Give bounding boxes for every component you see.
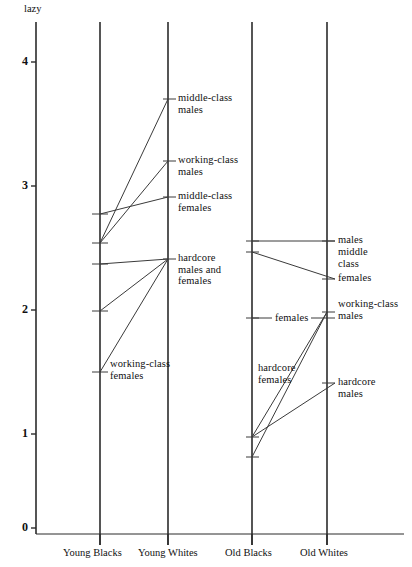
- label-old-hardcore-males: hardcore males: [338, 376, 376, 399]
- slope-working-class-females: [100, 259, 168, 311]
- label-working-class-females: working-class females: [110, 358, 170, 381]
- label-old-middle-class: middle class: [338, 246, 368, 269]
- y-tick-label-4: 4: [8, 54, 28, 69]
- label-old-blacks-females: females: [272, 312, 311, 324]
- label-middle-class-females: middle-class females: [178, 190, 232, 213]
- x-label-old-blacks: Old Blacks: [225, 547, 272, 558]
- label-old-hardcore-females: hardcore females: [258, 362, 296, 385]
- y-tick-label-1: 1: [8, 426, 28, 441]
- label-middle-class-males: middle-class males: [178, 92, 232, 115]
- leader-working-class-females: [100, 259, 168, 372]
- slope-middle-class-males: [100, 99, 168, 243]
- x-label-young-blacks: Young Blacks: [63, 547, 122, 558]
- y-tick-label-2: 2: [8, 302, 28, 317]
- y-tick-label-0: 0: [8, 520, 28, 535]
- slope-old-hardcore-males: [252, 383, 335, 437]
- slope-hardcore-males-and-females: [100, 259, 168, 264]
- label-working-class-males: working-class males: [178, 154, 238, 177]
- y-axis-top-label: lazy: [24, 3, 42, 14]
- slope-working-class-males: [100, 161, 168, 243]
- slopegraph-chart: lazy 4 3 2 1 0 middle-class males workin…: [0, 0, 412, 567]
- label-old-females: females: [338, 272, 371, 284]
- slope-middle-class-females: [100, 197, 168, 214]
- label-old-males: males: [338, 234, 363, 246]
- x-label-young-whites: Young Whites: [138, 547, 198, 558]
- slope-old-middle-class-females: [252, 252, 335, 279]
- x-label-old-whites: Old Whites: [300, 547, 348, 558]
- y-tick-label-3: 3: [8, 178, 28, 193]
- label-hardcore-males-and-females: hardcore males and females: [178, 252, 221, 287]
- label-old-working-class-males: working-class males: [338, 298, 398, 321]
